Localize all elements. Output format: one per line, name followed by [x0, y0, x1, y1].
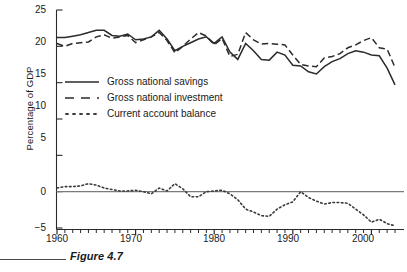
figure-caption-partial: [46, 266, 386, 272]
y-axis-major-ticks: [57, 10, 63, 228]
figure-caption-label: Figure 4.7: [70, 250, 123, 262]
series-line-current-account-balance: [57, 184, 395, 226]
legend-item-current-account-balance: Current account balance: [64, 106, 223, 122]
series-line-gross-national-investment: [57, 33, 395, 68]
figure-container: Percentage of GDP 25 20 15 10 5 0 −5 196…: [0, 0, 407, 272]
solid-line-key: [64, 77, 100, 87]
dotted-line-key: [64, 109, 100, 119]
legend-label-gross-national-savings: Gross national savings: [107, 77, 208, 87]
legend-item-gross-national-investment: Gross national investment: [64, 90, 223, 106]
legend: Gross national savings Gross national in…: [64, 74, 223, 122]
caption-rule: [0, 259, 66, 260]
legend-label-gross-national-investment: Gross national investment: [107, 93, 223, 103]
legend-item-gross-national-savings: Gross national savings: [64, 74, 223, 90]
plot-area: [0, 0, 407, 272]
legend-label-current-account-balance: Current account balance: [107, 109, 216, 119]
dashed-line-key: [64, 93, 100, 103]
